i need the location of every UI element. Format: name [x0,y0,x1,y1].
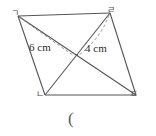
vertex-label-bottom-left: ㄴ [36,90,44,99]
measurement-label-right-height: 4 cm [85,43,107,54]
diagonal-intersection-point [76,54,78,56]
diagonal-top-right-to-bottom-left [45,13,110,95]
vertex-label-top-right: ㄹ [107,6,115,15]
side-right [110,13,136,95]
caption-parenthesis: ( [68,110,74,127]
side-top [18,13,110,16]
vertex-label-bottom-right: ㄷ [130,90,138,99]
geometry-figure: ㄱ ㄹ ㄷ ㄴ 6 cm 4 cm ( [0,0,156,136]
side-left [18,16,45,95]
measurement-label-left-height: 6 cm [29,42,51,53]
figure-canvas [0,0,156,136]
vertex-label-top-left: ㄱ [11,9,19,18]
diagonals [18,13,136,95]
